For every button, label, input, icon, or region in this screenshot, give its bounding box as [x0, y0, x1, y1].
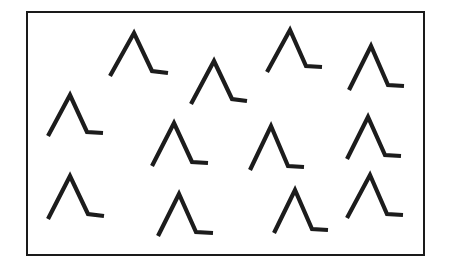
- lambda-with-foot-icon: [274, 190, 328, 233]
- lambda-with-foot-icon: [347, 175, 403, 218]
- lambda-with-foot-icon: [267, 30, 322, 72]
- lambda-with-foot-icon: [110, 33, 168, 76]
- lambda-with-foot-icon: [48, 95, 103, 136]
- lambda-with-foot-icon: [191, 61, 247, 104]
- lambda-with-foot-icon: [152, 123, 208, 166]
- shapes-layer: [48, 30, 404, 236]
- lambda-with-foot-icon: [349, 46, 404, 90]
- lambda-with-foot-icon: [158, 194, 213, 236]
- lambda-with-foot-icon: [250, 126, 304, 170]
- stimulus-shape-canvas: [0, 0, 451, 269]
- lambda-with-foot-icon: [48, 176, 104, 219]
- visual-search-stimulus-figure: [0, 0, 451, 269]
- lambda-with-foot-icon: [347, 117, 401, 159]
